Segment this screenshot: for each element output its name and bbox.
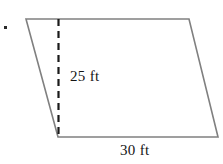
- base-measurement-label: 30 ft: [120, 143, 149, 158]
- parallelogram-diagram: [0, 0, 223, 164]
- height-measurement-label: 25 ft: [70, 69, 99, 84]
- parallelogram-outline: [26, 19, 218, 137]
- figure-canvas: 25 ft 30 ft: [0, 0, 223, 164]
